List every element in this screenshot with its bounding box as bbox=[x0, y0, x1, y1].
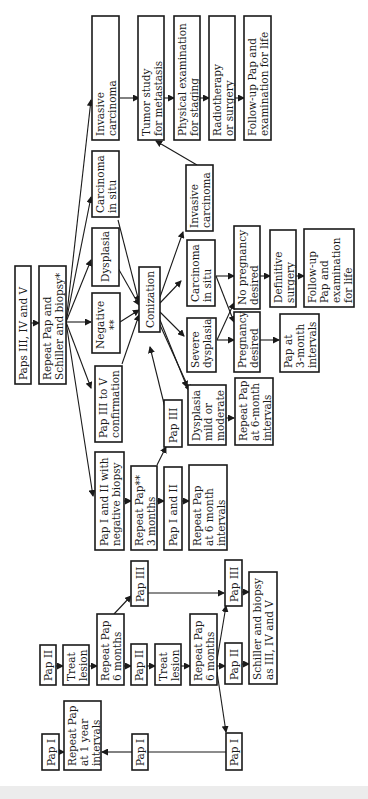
svg-text:Repeat Pap: Repeat Pap bbox=[66, 705, 78, 766]
edge-arrow bbox=[122, 315, 139, 364]
svg-text:6 months: 6 months bbox=[204, 632, 216, 681]
svg-text:Pap I: Pap I bbox=[134, 739, 146, 766]
node-pap-1-2-mid: Pap I and II bbox=[164, 467, 182, 550]
svg-text:Definitive: Definitive bbox=[272, 252, 284, 303]
svg-text:6 months: 6 months bbox=[111, 632, 123, 681]
edge-arrow bbox=[66, 322, 93, 496]
svg-text:Radiotherapy: Radiotherapy bbox=[211, 64, 223, 136]
edge-arrow bbox=[156, 141, 197, 165]
svg-text:3 months: 3 months bbox=[145, 497, 157, 546]
node-treat-lesion-a: Treat lesion bbox=[63, 645, 89, 685]
node-paps-3-4-5: Paps III, IV and V bbox=[15, 266, 31, 384]
svg-text:Treat: Treat bbox=[157, 652, 169, 681]
svg-text:Tumor study: Tumor study bbox=[140, 69, 152, 136]
svg-text:Pap III to V: Pap III to V bbox=[97, 377, 109, 438]
svg-text:Dysplasia: Dysplasia bbox=[190, 390, 202, 441]
svg-text:desired: desired bbox=[248, 328, 260, 368]
edge-arrow bbox=[160, 232, 183, 297]
svg-text:as III, IV and V: as III, IV and V bbox=[263, 600, 275, 680]
edge-arrow bbox=[118, 220, 139, 302]
svg-text:confirmation: confirmation bbox=[109, 370, 121, 438]
svg-text:in situ: in situ bbox=[201, 269, 213, 302]
node-pap-3-b: Pap III bbox=[225, 560, 242, 606]
svg-text:lesion: lesion bbox=[77, 649, 89, 681]
node-carcinoma-in-situ-mid: Carcinoma in situ bbox=[187, 240, 215, 306]
node-repeat-pap-6-months-b: Repeat Pap 6 months bbox=[190, 614, 217, 685]
node-carcinoma-in-situ-top: Carcinoma in situ bbox=[92, 151, 119, 217]
edge-arrow bbox=[216, 276, 234, 322]
node-dysplasia-mild-moderate: Dysplasia mild or moderate bbox=[188, 385, 226, 445]
svg-text:intervals: intervals bbox=[90, 719, 102, 766]
svg-text:Pap I and II with: Pap I and II with bbox=[98, 457, 110, 546]
node-invasive-carcinoma-mid: Invasive carcinoma bbox=[186, 165, 213, 231]
edge-arrow bbox=[118, 268, 139, 305]
edge-arrow bbox=[66, 100, 91, 322]
svg-text:Pap III: Pap III bbox=[167, 408, 179, 443]
node-pap-3-to-5-confirmation: Pap III to V confirmation bbox=[95, 366, 122, 442]
node-repeat-pap-6-month-intervals-2: Repeat Pap at 6-month intervals bbox=[235, 378, 273, 445]
svg-text:Pap I: Pap I bbox=[228, 739, 240, 766]
node-treat-lesion-b: Treat lesion bbox=[155, 644, 181, 685]
svg-text:Invasive: Invasive bbox=[94, 92, 106, 136]
node-followup-life-top: Follow-up Pap and examination for life bbox=[244, 16, 271, 140]
node-physical-exam: Physical examination for staging bbox=[174, 16, 200, 140]
svg-text:Repeat Pap: Repeat Pap bbox=[192, 620, 204, 681]
edge-arrow bbox=[160, 325, 190, 391]
node-repeat-pap-schiller: Repeat Pap and Schiller and biopsy* bbox=[39, 266, 66, 384]
edge-arrow bbox=[217, 303, 234, 340]
node-radiotherapy: Radiotherapy or surgery bbox=[209, 16, 235, 140]
svg-text:Schiller and biopsy*: Schiller and biopsy* bbox=[53, 272, 65, 380]
svg-text:intervals: intervals bbox=[306, 321, 318, 368]
svg-text:Repeat Pap: Repeat Pap bbox=[191, 485, 203, 546]
svg-text:Pap II: Pap II bbox=[133, 650, 145, 681]
svg-text:carcinoma: carcinoma bbox=[200, 172, 212, 228]
svg-text:Repeat Pap and: Repeat Pap and bbox=[41, 296, 53, 380]
svg-text:Pap III: Pap III bbox=[134, 567, 146, 602]
svg-text:intervals: intervals bbox=[215, 499, 227, 546]
svg-text:Pap III: Pap III bbox=[228, 567, 240, 602]
svg-text:Negative: Negative bbox=[94, 301, 106, 349]
node-pap-3-a: Pap III bbox=[131, 561, 148, 606]
svg-text:Pap at: Pap at bbox=[282, 334, 294, 368]
edge-arrow bbox=[160, 281, 181, 303]
node-negative: Negative ** bbox=[92, 293, 120, 353]
svg-text:Repeat Pap**: Repeat Pap** bbox=[133, 474, 145, 546]
svg-text:Physical examination: Physical examination bbox=[176, 23, 188, 136]
svg-text:**: ** bbox=[107, 319, 119, 330]
svg-text:Carcinoma: Carcinoma bbox=[189, 244, 201, 302]
edge-arrow bbox=[157, 447, 166, 465]
page-bottom-edge bbox=[0, 786, 368, 799]
svg-text:Repeat Pap: Repeat Pap bbox=[99, 620, 111, 681]
node-pap-2-c: Pap II bbox=[225, 643, 242, 684]
svg-text:Carcinoma: Carcinoma bbox=[94, 155, 106, 213]
svg-text:examination: examination bbox=[330, 237, 342, 303]
svg-text:mild or: mild or bbox=[202, 402, 214, 441]
node-pap-2-b: Pap II bbox=[131, 644, 147, 685]
node-schiller-biopsy: Schiller and biopsy as III, IV and V bbox=[249, 572, 277, 684]
svg-text:3-month: 3-month bbox=[294, 324, 306, 368]
svg-text:desired: desired bbox=[248, 265, 260, 305]
svg-text:examination for life: examination for life bbox=[258, 32, 270, 136]
svg-text:Treat: Treat bbox=[65, 652, 77, 681]
edge-arrow bbox=[114, 596, 131, 614]
svg-text:at 6-month: at 6-month bbox=[249, 383, 261, 441]
svg-text:Pregnancy: Pregnancy bbox=[236, 311, 248, 368]
edge-arrow bbox=[66, 322, 91, 388]
svg-text:Invasive: Invasive bbox=[188, 184, 200, 228]
svg-text:surgery: surgery bbox=[284, 262, 296, 303]
node-definitive-surgery: Definitive surgery bbox=[270, 230, 296, 307]
svg-text:in situ: in situ bbox=[106, 180, 118, 213]
svg-text:for staging: for staging bbox=[188, 78, 200, 136]
svg-text:Pap I and II: Pap I and II bbox=[167, 484, 179, 546]
svg-text:lesion: lesion bbox=[169, 649, 181, 681]
nodes: Paps III, IV and V Repeat Pap and Schill… bbox=[15, 16, 354, 770]
node-pap-2-a: Pap II bbox=[40, 645, 56, 685]
node-pregnancy-desired: Pregnancy desired bbox=[234, 311, 260, 372]
node-pap-1-2-negative-biopsy: Pap I and II with negative biopsy bbox=[95, 452, 124, 550]
node-repeat-pap-1-year: Repeat Pap at 1 year intervals bbox=[64, 701, 102, 770]
svg-text:at 1 year: at 1 year bbox=[78, 718, 90, 766]
node-dysplasia: Dysplasia bbox=[92, 228, 119, 286]
svg-text:intervals: intervals bbox=[261, 394, 273, 441]
node-pap-1-a: Pap I bbox=[42, 734, 59, 770]
svg-text:Repeat Pap: Repeat Pap bbox=[237, 380, 249, 441]
